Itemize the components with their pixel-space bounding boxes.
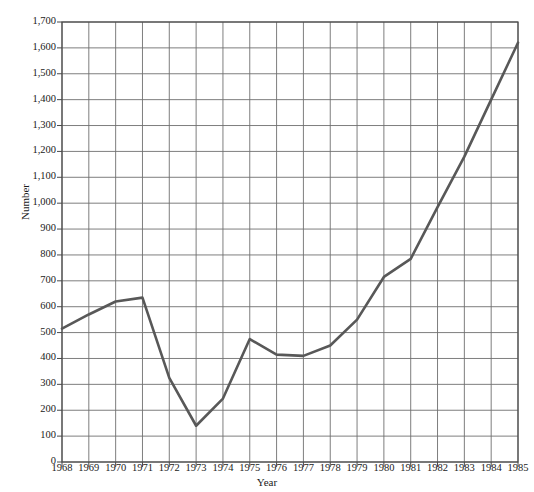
axis-ticks xyxy=(57,22,518,467)
grid-lines xyxy=(62,22,518,462)
line-chart: Number Year 0100200300400500600700800900… xyxy=(0,0,534,492)
plot-border xyxy=(62,22,518,462)
plot-area xyxy=(0,0,534,492)
data-line-series xyxy=(62,43,518,426)
